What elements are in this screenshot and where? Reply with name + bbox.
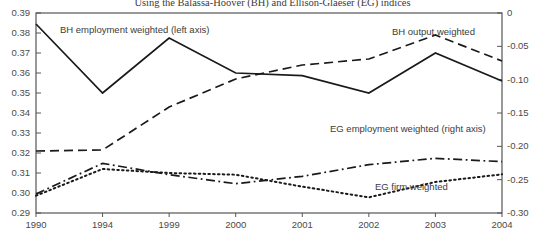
- y-right-tick-label: 0: [507, 7, 541, 18]
- y-left-tick-label: 0.32: [2, 147, 30, 158]
- y-right-tick-label: -0.10: [507, 74, 541, 85]
- x-tick-label: 1990: [16, 219, 56, 230]
- x-tick-label: 2000: [216, 219, 256, 230]
- x-tick-label: 2002: [349, 219, 389, 230]
- x-tick-label: 2003: [415, 219, 455, 230]
- y-left-tick-label: 0.31: [2, 167, 30, 178]
- y-right-tick-label: -0.20: [507, 140, 541, 151]
- series-label-2: EG employment weighted (right axis): [330, 123, 486, 134]
- y-left-tick-label: 0.33: [2, 127, 30, 138]
- series-lines: [36, 24, 502, 197]
- y-left-tick-label: 0.39: [2, 7, 30, 18]
- y-left-tick-label: 0.29: [2, 207, 30, 218]
- y-left-tick-label: 0.37: [2, 47, 30, 58]
- y-left-tick-label: 0.34: [2, 107, 30, 118]
- x-tick-label: 1994: [83, 219, 123, 230]
- y-right-tick-label: -0.05: [507, 40, 541, 51]
- series-label-3: EG firm weighted: [375, 181, 448, 192]
- series-label-1: BH output weighted: [392, 26, 475, 37]
- y-left-tick-label: 0.30: [2, 187, 30, 198]
- series-label-0: BH employment weighted (left axis): [60, 24, 209, 35]
- chart-figure: Using the Balassa-Hoover (BH) and Elliso…: [0, 0, 545, 237]
- y-left-tick-label: 0.35: [2, 87, 30, 98]
- y-right-tick-label: -0.15: [507, 107, 541, 118]
- y-left-tick-label: 0.38: [2, 27, 30, 38]
- x-tick-label: 2001: [282, 219, 322, 230]
- x-tick-label: 2004: [482, 219, 522, 230]
- y-right-tick-label: -0.25: [507, 174, 541, 185]
- x-tick-label: 1999: [149, 219, 189, 230]
- y-right-tick-label: -0.30: [507, 207, 541, 218]
- y-left-tick-label: 0.36: [2, 67, 30, 78]
